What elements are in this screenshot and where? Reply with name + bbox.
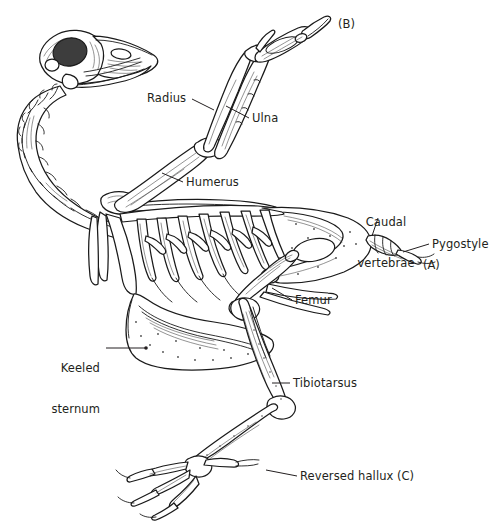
panel-tag-a: (A) (423, 259, 440, 272)
forearm-bones (194, 47, 271, 159)
label-caudal-vertebrae: Caudal vertebrae (352, 189, 420, 297)
pygostyle-tip (418, 254, 434, 257)
bird-skeleton-figure: Radius Ulna Humerus Caudal vertebrae Pyg… (0, 0, 501, 532)
label-caudal-vertebrae-line1: Caudal (352, 216, 420, 230)
label-tibiotarsus: Tibiotarsus (293, 377, 357, 390)
label-keeled-sternum-line1: Keeled (20, 362, 100, 376)
label-reversed-hallux: Reversed hallux (300, 470, 394, 483)
toe (127, 469, 155, 482)
toe (152, 503, 178, 520)
label-pygostyle: Pygostyle (432, 238, 489, 251)
leader-radius (192, 99, 214, 110)
label-keeled-sternum: Keeled sternum (20, 335, 100, 443)
panel-tag-c: (C) (397, 470, 414, 483)
skull-group (40, 30, 158, 88)
coracoid (106, 214, 136, 294)
label-keeled-sternum-line2: sternum (20, 403, 100, 417)
temporal-fenestra (45, 59, 59, 71)
label-caudal-vertebrae-line2: vertebrae (352, 257, 420, 271)
label-humerus: Humerus (186, 176, 239, 189)
rib (137, 219, 156, 281)
label-femur: Femur (295, 294, 332, 307)
hallux-claw-2 (236, 464, 258, 466)
label-radius: Radius (147, 92, 186, 105)
leader-reversed-hallux (266, 470, 297, 476)
hallux-claw (236, 460, 259, 462)
panel-tag-b: (B) (338, 18, 355, 31)
manus-group (245, 16, 331, 62)
toe (131, 490, 159, 506)
furcula-branch (89, 216, 99, 285)
tarsometatarsus (192, 404, 277, 464)
leader-dot-sternum (144, 346, 148, 350)
reversed-hallux (204, 459, 239, 468)
label-ulna: Ulna (252, 112, 278, 125)
